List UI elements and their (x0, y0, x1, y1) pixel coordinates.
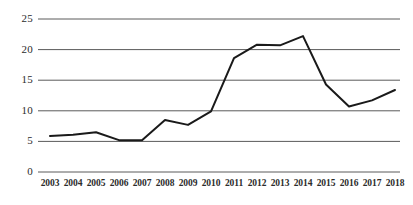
y-tick-label: 0 (0, 165, 33, 177)
y-tick-label: 15 (0, 73, 33, 85)
data-series-group (50, 36, 395, 140)
x-tick-label: 2018 (381, 178, 409, 188)
y-tick-label: 25 (0, 12, 33, 24)
data-line-series-0 (50, 36, 395, 140)
y-tick-label: 5 (0, 134, 33, 146)
line-chart-figure: 2520151050 20032004200520062007200820092… (0, 0, 413, 205)
y-tick-label: 10 (0, 104, 33, 116)
gridline-group (38, 19, 400, 172)
y-tick-label: 20 (0, 43, 33, 55)
chart-plot-area (0, 0, 413, 205)
